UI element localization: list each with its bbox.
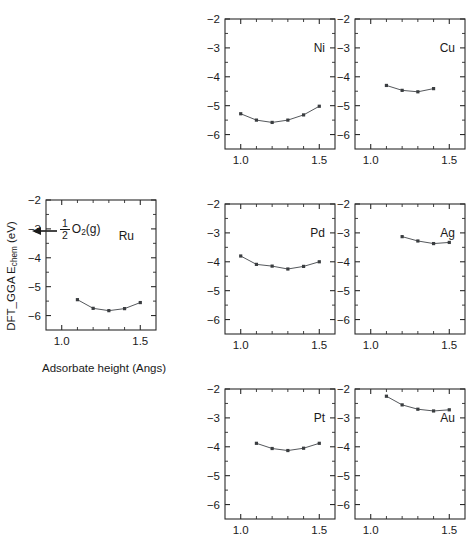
data-point [255,442,258,445]
data-point [286,119,289,122]
plot-panel-ni: −2−3−4−5−61.01.5Ni [199,15,339,171]
data-point [76,298,79,301]
y-ticklabel: −6 [337,499,350,511]
data-point [302,447,305,450]
y-ticklabel: −2 [337,383,350,395]
y-ticklabel: −4 [207,256,221,268]
data-point [239,112,242,115]
data-point [271,121,274,124]
data-point [318,260,321,263]
data-point [318,442,321,445]
y-ticklabel: −6 [207,314,220,326]
data-point [302,113,305,116]
y-ticklabel: −3 [207,42,220,54]
y-ticklabel: −6 [337,129,350,141]
panel-title-au: Au [440,411,455,425]
x-ticklabel: 1.0 [233,524,249,536]
y-ticklabel: −4 [337,71,351,83]
plot-panel-cu: −2−3−4−5−61.01.5Cu [329,15,469,171]
data-point [385,395,388,398]
data-point [286,449,289,452]
y-ticklabel: −5 [337,470,350,482]
data-point [271,265,274,268]
x-ticklabel: 1.0 [233,339,249,351]
y-ticklabel: −2 [207,383,220,395]
y-ticklabel: −3 [28,223,41,235]
data-point [255,119,258,122]
y-ticklabel: −6 [207,499,220,511]
data-point [239,254,242,257]
data-point [139,301,142,304]
data-point [401,235,404,238]
data-point [401,403,404,406]
x-ticklabel: 1.5 [441,524,457,536]
y-ticklabel: −3 [207,412,220,424]
y-ticklabel: −5 [207,470,220,482]
y-ticklabel: −6 [207,129,220,141]
y-ticklabel: −3 [337,42,350,54]
panel-title-ni: Ni [314,41,325,55]
data-point [107,309,110,312]
data-point [385,84,388,87]
axes-frame [225,204,335,334]
y-ticklabel: −5 [207,100,220,112]
y-ticklabel: −4 [337,441,351,453]
y-ticklabel: −5 [337,285,350,297]
data-point [401,89,404,92]
panel-title-pt: Pt [314,411,326,425]
y-ticklabel: −4 [207,71,221,83]
x-ticklabel: 1.0 [363,339,379,351]
y-axis-title: DFT_GGA Echem (eV) [2,196,20,356]
x-ticklabel: 1.5 [311,154,327,166]
axes-frame [225,389,335,519]
x-axis-title: Adsorbate height (Angs) [18,362,190,374]
y-ticklabel: −4 [207,441,221,453]
x-ticklabel: 1.5 [311,524,327,536]
y-ticklabel: −2 [207,13,220,25]
data-point [416,408,419,411]
y-ticklabel: −4 [28,252,42,264]
axes-frame [225,19,335,149]
y-ticklabel: −5 [28,281,41,293]
series-line-pd [241,256,320,269]
data-point [432,409,435,412]
x-ticklabel: 1.0 [233,154,249,166]
y-ticklabel: −2 [337,198,350,210]
panel-title-ru: Ru [119,229,134,243]
y-ticklabel: −5 [207,285,220,297]
panel-title-ag: Ag [440,226,455,240]
series-line-ru [77,300,140,311]
y-axis-title-prefix: DFT_GGA E [5,266,17,331]
y-ticklabel: −4 [337,256,351,268]
data-point [432,242,435,245]
plot-panel-pd: −2−3−4−5−61.01.5Pd [199,200,339,356]
y-axis-title-subscript: chem [10,246,19,266]
data-point [416,239,419,242]
x-ticklabel: 1.5 [311,339,327,351]
data-point [286,267,289,270]
x-ticklabel: 1.0 [363,154,379,166]
series-line-ni [241,106,320,122]
x-ticklabel: 1.0 [54,335,70,347]
y-axis-title-suffix: (eV) [5,221,17,246]
y-ticklabel: −2 [207,198,220,210]
plot-panel-au: −2−3−4−5−61.01.5Au [329,385,469,541]
x-ticklabel: 1.5 [441,339,457,351]
data-point [448,241,451,244]
y-ticklabel: −3 [207,227,220,239]
data-point [432,87,435,90]
data-point [318,105,321,108]
y-ticklabel: −5 [337,100,350,112]
y-ticklabel: −2 [337,13,350,25]
y-ticklabel: −6 [28,310,41,322]
plot-panel-pt: −2−3−4−5−61.01.5Pt [199,385,339,541]
data-point [255,263,258,266]
data-point [92,307,95,310]
data-point [416,90,419,93]
x-ticklabel: 1.5 [441,154,457,166]
panel-title-pd: Pd [310,226,325,240]
series-line-cu [386,85,433,91]
x-ticklabel: 1.5 [132,335,148,347]
data-point [302,265,305,268]
